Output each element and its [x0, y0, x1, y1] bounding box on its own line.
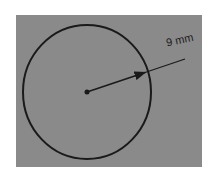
center-point [85, 90, 90, 95]
circle-diagram: 9 mm [0, 0, 217, 178]
